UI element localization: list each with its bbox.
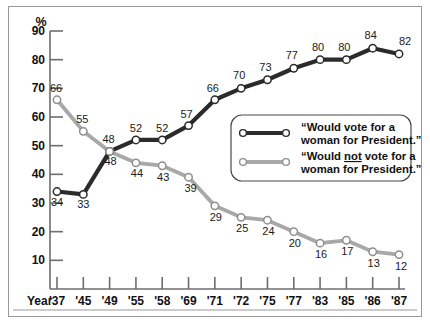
y-tick-label-10: 10 bbox=[32, 253, 46, 267]
value-label-vote-71: 66 bbox=[207, 82, 219, 94]
value-label-vote-87: 82 bbox=[399, 35, 411, 47]
value-label-vote-45: 33 bbox=[77, 198, 89, 210]
data-point-not-vote-55 bbox=[132, 159, 139, 166]
value-label-vote-58: 52 bbox=[156, 122, 168, 134]
data-point-vote-69 bbox=[185, 122, 192, 129]
data-point-vote-83 bbox=[316, 56, 323, 63]
data-point-not-vote-87 bbox=[395, 251, 402, 258]
value-label-not-vote-83: 16 bbox=[315, 248, 327, 260]
data-point-vote-77 bbox=[290, 65, 297, 72]
value-label-not-vote-37: 66 bbox=[50, 82, 62, 94]
y-tick-label-60: 60 bbox=[32, 110, 46, 124]
x-axis-tick-labels: '37'45'49'55'58'69'71'72'75'77'83'85'86'… bbox=[49, 294, 408, 308]
data-point-vote-37 bbox=[53, 188, 60, 195]
value-label-not-vote-75: 24 bbox=[262, 225, 274, 237]
value-label-vote-55: 52 bbox=[130, 122, 142, 134]
x-tick-label-45: '45 bbox=[75, 294, 92, 308]
data-point-not-vote-86 bbox=[369, 248, 376, 255]
data-point-vote-55 bbox=[132, 136, 139, 143]
legend-marker-left-vote bbox=[240, 130, 247, 137]
value-label-not-vote-85: 17 bbox=[341, 245, 353, 257]
value-label-vote-72: 70 bbox=[233, 69, 245, 81]
data-point-not-vote-77 bbox=[290, 228, 297, 235]
data-point-vote-71 bbox=[211, 96, 218, 103]
y-tick-label-30: 30 bbox=[32, 196, 46, 210]
x-tick-label-37: '37 bbox=[49, 294, 66, 308]
legend-label-vote-line1: “Would vote for a bbox=[301, 121, 396, 133]
data-point-vote-58 bbox=[159, 136, 166, 143]
value-label-not-vote-87: 12 bbox=[395, 260, 407, 272]
y-tick-label-40: 40 bbox=[32, 167, 46, 181]
x-tick-label-85: '85 bbox=[338, 294, 355, 308]
x-tick-label-71: '71 bbox=[207, 294, 224, 308]
legend-label-not-vote-line1: “Would not vote for a bbox=[301, 150, 416, 162]
legend-marker-left-not-vote bbox=[240, 159, 247, 166]
value-label-vote-83: 80 bbox=[312, 41, 324, 53]
legend-label-vote-line2: woman for President.” bbox=[300, 134, 421, 146]
value-label-vote-77: 77 bbox=[286, 49, 298, 61]
value-label-not-vote-71: 29 bbox=[210, 211, 222, 223]
y-tick-label-80: 80 bbox=[32, 53, 46, 67]
chart-frame: % 102030405060708090 Year '37'45'49'55'5… bbox=[8, 6, 422, 317]
data-point-not-vote-71 bbox=[211, 202, 218, 209]
data-point-vote-45 bbox=[80, 191, 87, 198]
value-label-vote-75: 73 bbox=[259, 61, 271, 73]
x-tick-label-55: '55 bbox=[128, 294, 145, 308]
data-point-not-vote-58 bbox=[159, 162, 166, 169]
data-point-vote-75 bbox=[264, 76, 271, 83]
data-point-not-vote-75 bbox=[264, 217, 271, 224]
value-label-not-vote-77: 20 bbox=[289, 237, 301, 249]
x-tick-label-72: '72 bbox=[233, 294, 250, 308]
value-label-vote-85: 80 bbox=[338, 41, 350, 53]
chart-legend[interactable]: “Would vote for a woman for President.” … bbox=[231, 115, 421, 181]
x-tick-label-77: '77 bbox=[286, 294, 303, 308]
value-label-vote-69: 57 bbox=[180, 108, 192, 120]
x-tick-label-58: '58 bbox=[154, 294, 171, 308]
y-tick-label-20: 20 bbox=[32, 225, 46, 239]
value-label-not-vote-86: 13 bbox=[368, 257, 380, 269]
x-tick-label-83: '83 bbox=[312, 294, 329, 308]
data-point-vote-72 bbox=[237, 85, 244, 92]
data-point-vote-87 bbox=[395, 50, 402, 57]
value-label-not-vote-72: 25 bbox=[236, 222, 248, 234]
data-point-not-vote-45 bbox=[80, 128, 87, 135]
x-axis-ticks bbox=[57, 277, 399, 289]
data-point-vote-86 bbox=[369, 45, 376, 52]
x-tick-label-69: '69 bbox=[180, 294, 197, 308]
value-label-vote-86: 84 bbox=[365, 29, 377, 41]
value-label-vote-37: 34 bbox=[51, 196, 63, 208]
legend-marker-right-not-vote bbox=[283, 159, 290, 166]
data-point-not-vote-85 bbox=[343, 237, 350, 244]
value-label-not-vote-58: 43 bbox=[157, 171, 169, 183]
data-point-not-vote-83 bbox=[316, 239, 323, 246]
x-tick-label-49: '49 bbox=[102, 294, 119, 308]
x-tick-label-87: '87 bbox=[391, 294, 408, 308]
x-tick-label-75: '75 bbox=[259, 294, 276, 308]
value-label-not-vote-55: 44 bbox=[131, 167, 143, 179]
x-tick-label-86: '86 bbox=[365, 294, 382, 308]
data-point-not-vote-72 bbox=[237, 214, 244, 221]
y-tick-label-90: 90 bbox=[32, 24, 46, 38]
data-point-not-vote-49 bbox=[106, 148, 113, 155]
value-label-vote-49: 48 bbox=[102, 133, 114, 145]
data-point-not-vote-37 bbox=[53, 96, 60, 103]
value-label-not-vote-45: 55 bbox=[76, 113, 88, 125]
data-point-vote-85 bbox=[343, 56, 350, 63]
value-label-not-vote-49: 48 bbox=[104, 155, 116, 167]
y-axis-ticks: 102030405060708090 bbox=[32, 24, 63, 267]
y-tick-label-50: 50 bbox=[32, 139, 46, 153]
y-tick-label-70: 70 bbox=[32, 81, 46, 95]
value-label-not-vote-69: 39 bbox=[184, 182, 196, 194]
legend-marker-right-vote bbox=[283, 130, 290, 137]
data-point-not-vote-69 bbox=[185, 174, 192, 181]
line-chart: % 102030405060708090 Year '37'45'49'55'5… bbox=[9, 7, 421, 316]
legend-label-not-vote-line2: woman for President.” bbox=[300, 163, 421, 175]
